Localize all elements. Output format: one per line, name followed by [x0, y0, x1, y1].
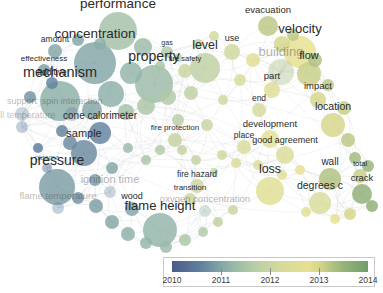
term-label[interactable]: building: [259, 44, 304, 57]
term-map-canvas[interactable]: concentrationmechanismperformancepropert…: [0, 0, 383, 293]
term-label[interactable]: plasma: [35, 155, 59, 163]
term-node[interactable]: part: [264, 82, 280, 98]
term-label[interactable]: support: [7, 97, 37, 106]
term-label[interactable]: location: [315, 101, 351, 112]
term-label[interactable]: level: [192, 39, 218, 52]
term-label[interactable]: additive: [37, 67, 66, 76]
term-node-unlabeled[interactable]: [121, 227, 135, 241]
term-label[interactable]: development: [243, 119, 297, 129]
term-node-unlabeled[interactable]: [141, 155, 151, 165]
term-node[interactable]: location: [321, 113, 345, 137]
term-node[interactable]: loss: [256, 177, 284, 205]
legend-tick-label: 2013: [310, 275, 329, 285]
term-label[interactable]: part: [264, 71, 280, 81]
term-node-unlabeled[interactable]: [234, 74, 246, 86]
term-label[interactable]: flame temperature: [19, 191, 96, 201]
term-label[interactable]: velocity: [278, 21, 321, 34]
color-scale-legend: 20102011201220132014: [163, 257, 375, 287]
term-node-unlabeled[interactable]: [160, 89, 176, 105]
term-label[interactable]: amount: [41, 34, 69, 43]
term-node-unlabeled[interactable]: [366, 200, 378, 212]
term-node[interactable]: end: [252, 103, 266, 117]
term-label[interactable]: end: [252, 93, 266, 102]
term-label[interactable]: transition: [174, 184, 206, 192]
term-node-unlabeled[interactable]: [123, 143, 133, 153]
term-node-unlabeled[interactable]: [140, 237, 152, 249]
term-node-unlabeled[interactable]: [177, 145, 187, 155]
term-node[interactable]: use: [224, 44, 240, 60]
term-node-unlabeled[interactable]: [228, 205, 238, 215]
term-node[interactable]: place: [237, 140, 251, 154]
term-label[interactable]: wall: [321, 157, 338, 167]
term-node-unlabeled[interactable]: [184, 86, 198, 100]
term-node-unlabeled[interactable]: [218, 95, 228, 105]
term-label[interactable]: ignition time: [81, 174, 140, 185]
term-node-unlabeled[interactable]: [191, 155, 201, 165]
term-label[interactable]: good agreement: [252, 136, 318, 145]
term-label[interactable]: fire protection: [151, 124, 199, 132]
term-node-unlabeled[interactable]: [295, 165, 305, 175]
term-node-unlabeled[interactable]: [137, 97, 155, 115]
term-label[interactable]: use: [225, 34, 240, 43]
legend-tick-label: 2011: [212, 275, 230, 285]
term-label[interactable]: crack: [351, 173, 374, 183]
term-node-unlabeled[interactable]: [341, 133, 355, 147]
term-node[interactable]: flame temperature: [52, 202, 64, 214]
term-label[interactable]: fire hazard: [177, 169, 217, 178]
term-label[interactable]: total: [353, 161, 367, 169]
term-node-unlabeled[interactable]: [217, 150, 227, 160]
term-label[interactable]: fire safety: [169, 56, 202, 64]
term-label[interactable]: wall temperature: [0, 111, 55, 120]
term-label[interactable]: oxygen concentration: [160, 194, 250, 204]
legend-tick-label: 2012: [261, 275, 280, 285]
term-label[interactable]: gas: [161, 38, 172, 45]
term-label[interactable]: place: [234, 130, 254, 139]
term-label[interactable]: cone calorimeter: [63, 111, 137, 121]
term-node[interactable]: evacuation: [258, 16, 278, 36]
term-label[interactable]: loss: [259, 163, 281, 176]
term-label[interactable]: performance: [80, 0, 156, 10]
term-node[interactable]: fire protection: [168, 133, 182, 147]
term-label[interactable]: effectiveness: [21, 55, 68, 63]
term-label[interactable]: sample: [66, 128, 101, 139]
legend-tick: [319, 268, 320, 275]
term-node-unlabeled[interactable]: [179, 234, 191, 246]
term-node-unlabeled[interactable]: [330, 214, 340, 224]
term-label[interactable]: spin interaction: [42, 97, 103, 106]
term-node-unlabeled[interactable]: [198, 227, 208, 237]
legend-tick: [221, 268, 222, 275]
term-label[interactable]: impact: [304, 81, 332, 91]
term-node[interactable]: ignition time: [104, 186, 116, 198]
term-label[interactable]: wood: [121, 192, 143, 201]
legend-tick-label: 2014: [359, 275, 378, 285]
term-node-unlabeled[interactable]: [213, 217, 223, 227]
term-node[interactable]: degrees c: [309, 192, 331, 214]
term-node[interactable]: fire safety: [178, 64, 192, 78]
term-node-unlabeled[interactable]: [301, 207, 311, 217]
legend-tick: [270, 268, 271, 275]
term-node-unlabeled[interactable]: [231, 158, 241, 168]
term-node-unlabeled[interactable]: [155, 145, 165, 155]
term-label[interactable]: evacuation: [245, 5, 291, 15]
legend-tick-label: 2010: [163, 275, 182, 285]
term-node[interactable]: oxygen concentration: [199, 205, 211, 217]
term-node-unlabeled[interactable]: [105, 215, 119, 229]
term-node-unlabeled[interactable]: [344, 208, 356, 220]
term-node-unlabeled[interactable]: [160, 241, 172, 253]
term-node-unlabeled[interactable]: [120, 62, 142, 84]
term-label[interactable]: degrees c: [297, 180, 343, 191]
term-node-unlabeled[interactable]: [201, 119, 213, 131]
term-node[interactable]: wall temperature: [16, 121, 28, 133]
